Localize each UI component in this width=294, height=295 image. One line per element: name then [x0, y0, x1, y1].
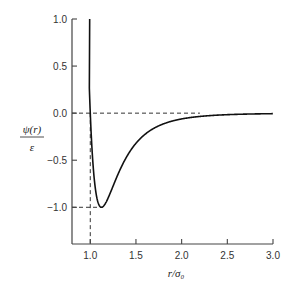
x-tick-label: 1.0 — [83, 250, 97, 261]
potential-chart: 1.01.52.02.53.0 1.00.50.0−0.5−1.0 ψ(r) ε… — [0, 0, 294, 295]
y-tick-label: 1.0 — [53, 14, 67, 25]
x-tick-label: 1.5 — [129, 250, 143, 261]
y-label-numerator: ψ(r) — [23, 123, 42, 136]
y-tick-label: 0.0 — [53, 108, 67, 119]
x-tick-label: 2.5 — [220, 250, 234, 261]
y-label-denominator: ε — [30, 141, 35, 153]
y-axis-label: ψ(r) ε — [20, 123, 44, 153]
x-axis-ticks: 1.01.52.02.53.0 — [83, 239, 280, 261]
x-axis-label: r/σ₀ — [168, 267, 185, 279]
axes — [72, 19, 273, 244]
x-tick-label: 2.0 — [175, 250, 189, 261]
x-tick-label: 3.0 — [266, 250, 280, 261]
y-tick-label: −1.0 — [47, 202, 67, 213]
y-tick-label: −0.5 — [47, 155, 67, 166]
y-tick-label: 0.5 — [53, 61, 67, 72]
